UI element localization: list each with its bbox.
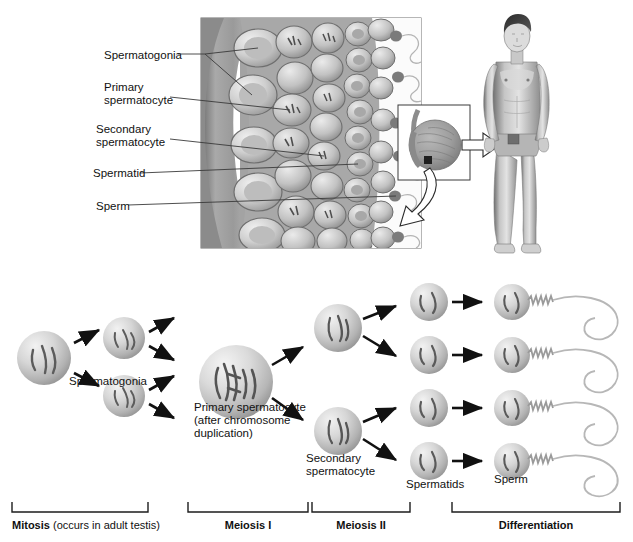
label-spermatid: Spermatid <box>93 167 145 180</box>
flow-label-primary-line2: (after chromosome <box>194 414 291 426</box>
label-spermatogonia: Spermatogonia <box>104 49 182 62</box>
testis-zoom-marker <box>424 156 432 164</box>
cell-sperm-2 <box>494 337 618 392</box>
cell-spermatid-1 <box>410 283 448 321</box>
stage-caption-meiosis-1-bold: Meiosis I <box>225 519 271 531</box>
bracket-mitosis <box>12 502 148 512</box>
cell-spermatogonium-1 <box>103 317 145 359</box>
arrow-secondary2-to-spermatid3 <box>363 408 396 422</box>
stage-caption-meiosis-2: Meiosis II <box>312 519 410 531</box>
arrow-primary-to-secondary-1 <box>272 347 303 365</box>
flow-label-primary-spermatocyte: Primary spermatocyte (after chromosome d… <box>194 401 344 440</box>
stage-caption-mitosis-bold: Mitosis <box>12 519 50 531</box>
label-primary-spermatocyte-line1: Primary <box>104 81 144 93</box>
cell-stem-spermatogonium <box>17 331 71 385</box>
cell-sperm-3 <box>494 390 618 445</box>
flow-label-sperm: Sperm <box>494 473 528 486</box>
top-panel-svg <box>0 0 633 270</box>
stage-caption-mitosis-rest: (occurs in adult testis) <box>50 519 160 531</box>
cell-spermatid-2 <box>410 336 448 374</box>
flow-label-primary-line1: Primary spermatocyte <box>194 401 306 413</box>
flow-label-secondary-spermatocyte: Secondary spermatocyte <box>306 452 416 478</box>
spermatogenesis-figure: Spermatogonia Primary spermatocyte Secon… <box>0 0 633 542</box>
flow-label-spermatogonia: Spermatogonia <box>69 375 147 388</box>
flow-label-secondary-line2: spermatocyte <box>306 465 375 477</box>
arrow-spermatogonium2-down <box>149 404 174 418</box>
stage-caption-meiosis-1: Meiosis I <box>188 519 308 531</box>
cell-spermatid-3 <box>410 389 448 427</box>
stage-caption-differentiation-bold: Differentiation <box>499 519 574 531</box>
label-sperm: Sperm <box>96 200 130 213</box>
arrow-spermatogonium1-up <box>149 318 174 332</box>
bracket-meiosis-2 <box>312 502 410 512</box>
tubule-illustration <box>201 18 421 255</box>
stage-caption-differentiation: Differentiation <box>452 519 620 531</box>
male-body-figure <box>484 14 549 253</box>
bracket-meiosis-1 <box>188 502 308 512</box>
label-secondary-spermatocyte: Secondary spermatocyte <box>96 123 165 149</box>
stage-caption-meiosis-2-bold: Meiosis II <box>336 519 386 531</box>
stage-caption-mitosis: Mitosis (occurs in adult testis) <box>12 519 148 531</box>
flow-label-primary-line3: duplication) <box>194 427 253 439</box>
cell-sperm-4 <box>494 443 618 496</box>
label-secondary-spermatocyte-line2: spermatocyte <box>96 136 165 148</box>
arrow-spermatogonium1-down <box>149 346 174 360</box>
cell-secondary-spermatocyte-1 <box>314 304 362 352</box>
arrow-spermatogonium2-up <box>149 376 174 390</box>
arrow-secondary1-to-spermatid2 <box>363 336 396 356</box>
bracket-differentiation <box>452 502 620 512</box>
label-secondary-spermatocyte-line1: Secondary <box>96 123 151 135</box>
flow-label-spermatids: Spermatids <box>406 478 464 491</box>
flow-label-secondary-line1: Secondary <box>306 452 361 464</box>
cell-sperm-1 <box>494 284 618 339</box>
label-primary-spermatocyte: Primary spermatocyte <box>104 81 173 107</box>
stage-brackets <box>12 502 620 512</box>
label-primary-spermatocyte-line2: spermatocyte <box>104 94 173 106</box>
genital-region-marker <box>508 134 519 144</box>
arrow-stem-to-spermatogonium-1 <box>74 330 99 343</box>
arrow-secondary1-to-spermatid1 <box>363 306 396 319</box>
